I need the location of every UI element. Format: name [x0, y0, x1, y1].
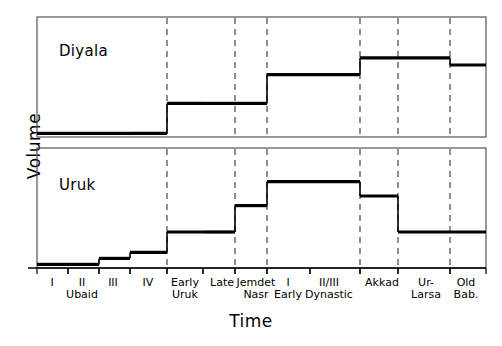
- panel-frame-uruk: [37, 148, 486, 268]
- series-uruk: [37, 182, 486, 265]
- figure-root: Volume Time Diyala Uruk IIIUbaidIIIIVEar…: [0, 0, 502, 346]
- series-diyala: [37, 58, 486, 134]
- x-tick-label-line2: Bab.: [426, 289, 502, 301]
- x-tick-label-line2: Ubaid: [42, 289, 122, 301]
- x-tick-label-line2: Uruk: [145, 289, 225, 301]
- panel-frame-diyala: [37, 17, 486, 137]
- x-tick-label-line2: Dynastic: [289, 289, 369, 301]
- x-tick-label: OldBab.: [426, 277, 502, 301]
